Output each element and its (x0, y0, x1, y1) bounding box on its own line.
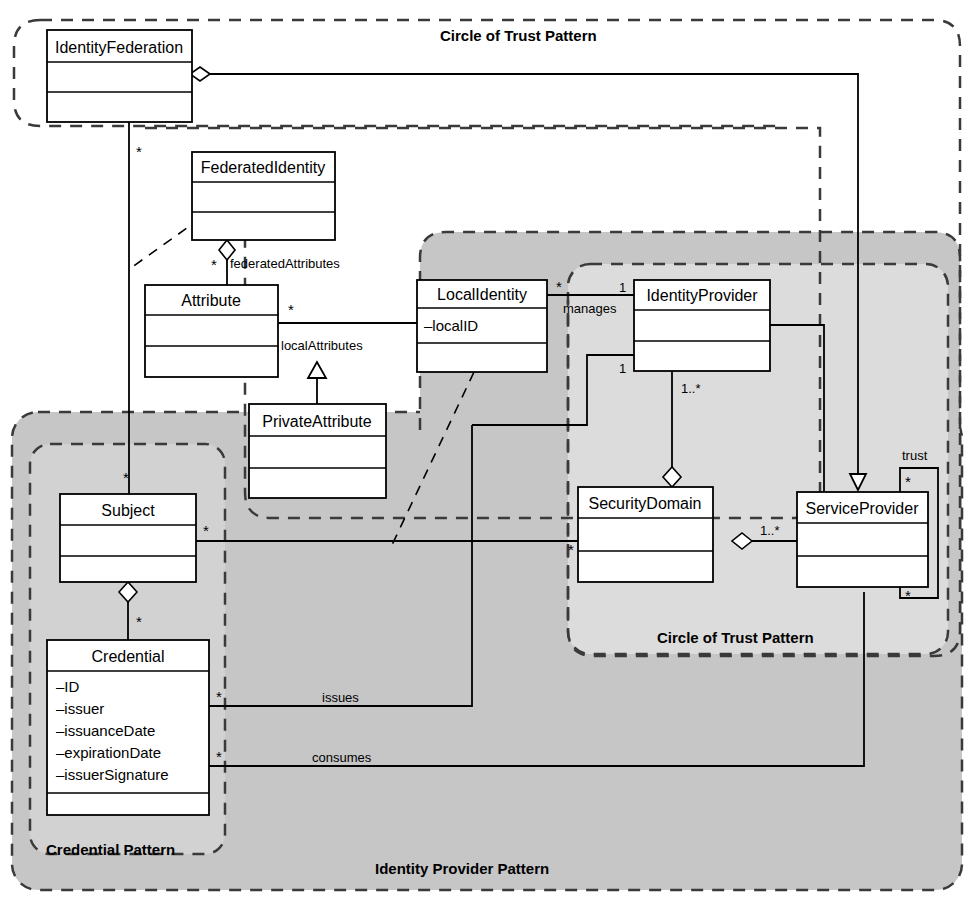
class-securitydomain[interactable]: SecurityDomain (578, 487, 713, 582)
class-identityprovider[interactable]: IdentityProvider (634, 280, 770, 371)
class-name-subject: Subject (101, 502, 155, 519)
class-attribute[interactable]: Attribute (145, 285, 278, 377)
class-name-identityprovider: IdentityProvider (646, 287, 758, 304)
class-attribute-issuer: –issuer (56, 700, 104, 717)
role-manages: manages (563, 301, 617, 316)
uml-diagram-canvas: IdentityFederation FederatedIdentity Att… (0, 0, 974, 904)
class-subject[interactable]: Subject (60, 494, 196, 582)
mult-identityprovider-second: 1 (619, 361, 626, 376)
class-name-privateattribute: PrivateAttribute (262, 413, 371, 430)
mult-trust-top: * (905, 473, 911, 490)
mult-subject-right: * (203, 522, 209, 539)
role-trust: trust (902, 448, 928, 463)
class-serviceprovider[interactable]: ServiceProvider (797, 492, 928, 587)
class-credential[interactable]: Credential –ID –issuer –issuanceDate –ex… (47, 640, 209, 815)
class-attribute-id: –ID (56, 678, 80, 695)
mult-trust-bottom: * (905, 587, 911, 604)
role-localattributes: localAttributes (281, 338, 363, 353)
class-name-securitydomain: SecurityDomain (589, 495, 702, 512)
class-name-identityfederation: IdentityFederation (55, 39, 183, 56)
class-name-federatedidentity: FederatedIdentity (201, 159, 326, 176)
class-privateattribute[interactable]: PrivateAttribute (249, 404, 386, 498)
class-name-attribute: Attribute (181, 292, 241, 309)
diagram-svg: IdentityFederation FederatedIdentity Att… (0, 0, 974, 904)
dashed-link-federatedidentity-localidentity (128, 218, 201, 270)
mult-credential-issues: * (216, 688, 222, 705)
mult-securitydomain-serviceprovider: 1..* (760, 523, 780, 538)
class-name-serviceprovider: ServiceProvider (806, 500, 920, 517)
mult-credential-consumes: * (216, 748, 222, 765)
pattern-label-circle-of-trust-outer: Circle of Trust Pattern (440, 27, 597, 44)
role-issues: issues (322, 690, 359, 705)
pattern-label-circle-of-trust-inner: Circle of Trust Pattern (657, 629, 814, 646)
generalization-privateattribute-attribute (308, 362, 326, 404)
mult-identityprovider-manages: 1 (619, 280, 626, 295)
class-name-localidentity: LocalIdentity (437, 286, 527, 303)
mult-identityfederation-subject: * (136, 143, 142, 160)
role-consumes: consumes (312, 750, 372, 765)
class-localidentity[interactable]: LocalIdentity –localID (417, 280, 547, 372)
aggregation-diamond (190, 67, 210, 81)
pattern-label-credential: Credential Pattern (46, 841, 175, 858)
generalization-arrow (308, 362, 326, 378)
mult-credential-top: * (136, 613, 142, 630)
mult-federatedattributes: * (211, 256, 217, 273)
class-attribute-issuersignature: –issuerSignature (56, 766, 169, 783)
class-attribute-expirationdate: –expirationDate (56, 744, 161, 761)
class-federatedidentity[interactable]: FederatedIdentity (192, 152, 335, 240)
class-name-credential: Credential (92, 648, 165, 665)
mult-identityprovider-securitydomain: 1..* (681, 381, 701, 396)
mult-securitydomain-left: * (568, 541, 574, 558)
role-federatedattributes: federatedAttributes (230, 256, 340, 271)
mult-subject-top: * (123, 469, 129, 486)
assoc-attribute-localidentity (278, 315, 437, 331)
mult-localidentity-manages: * (556, 278, 562, 295)
class-identityfederation[interactable]: IdentityFederation (47, 30, 192, 122)
class-attribute-issuancedate: –issuanceDate (56, 722, 155, 739)
class-attribute-localid: –localID (424, 317, 478, 334)
mult-attribute-localattributes: * (288, 301, 294, 318)
pattern-label-identity-provider: Identity Provider Pattern (375, 860, 549, 877)
